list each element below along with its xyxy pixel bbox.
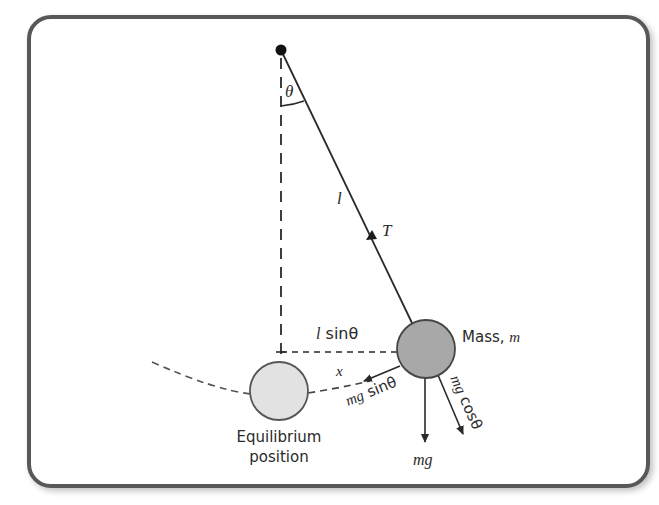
diagram-frame bbox=[29, 17, 648, 486]
equilibrium-label-line2: position bbox=[249, 448, 308, 466]
pivot-point bbox=[276, 45, 287, 56]
tension-label: T bbox=[382, 221, 393, 240]
mg-label: mg bbox=[413, 451, 433, 469]
theta-label: θ bbox=[285, 82, 293, 101]
mass-bob bbox=[397, 320, 455, 378]
l-sin-theta-label: l sinθ bbox=[316, 324, 358, 343]
equilibrium-bob bbox=[250, 362, 308, 420]
length-label: l bbox=[337, 189, 342, 208]
x-label: x bbox=[335, 363, 343, 379]
pendulum-diagram: θ l T l sinθ x Mass, m mg sinθ mg cosθ m… bbox=[0, 0, 659, 505]
mass-label: Mass, m bbox=[462, 328, 520, 346]
equilibrium-label-line1: Equilibrium bbox=[237, 428, 322, 446]
